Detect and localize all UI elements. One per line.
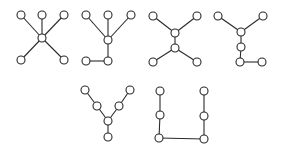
graph-diagram xyxy=(0,0,281,157)
node xyxy=(236,58,244,66)
node xyxy=(200,135,208,143)
node xyxy=(156,111,164,119)
node xyxy=(115,102,123,110)
node xyxy=(60,11,68,19)
node xyxy=(200,87,208,95)
graph-spider-with-bent-leg xyxy=(82,11,135,65)
graph-y-shape xyxy=(81,86,134,141)
node xyxy=(149,12,157,20)
node xyxy=(258,58,266,66)
node xyxy=(104,133,112,141)
node xyxy=(126,86,134,94)
node xyxy=(171,29,179,37)
node xyxy=(38,11,46,19)
graph-fork-with-tail xyxy=(214,12,267,66)
node xyxy=(60,56,68,64)
node xyxy=(200,112,208,120)
edge xyxy=(159,138,204,139)
edge xyxy=(42,38,64,60)
edge xyxy=(21,15,42,38)
edge xyxy=(108,15,131,40)
node xyxy=(104,117,112,125)
edge xyxy=(21,38,42,60)
node xyxy=(104,11,112,19)
node xyxy=(193,58,201,66)
diagram-canvas xyxy=(0,0,281,157)
node xyxy=(149,58,157,66)
node xyxy=(93,102,101,110)
node xyxy=(171,44,179,52)
node xyxy=(82,57,90,65)
graph-u-path xyxy=(155,87,208,143)
node xyxy=(17,56,25,64)
node xyxy=(156,87,164,95)
node xyxy=(82,11,90,19)
node xyxy=(259,12,267,20)
node xyxy=(193,12,201,20)
graph-star-k1-5 xyxy=(17,11,68,64)
node xyxy=(237,43,245,51)
edge xyxy=(86,15,108,40)
node xyxy=(81,86,89,94)
node xyxy=(237,28,245,36)
edge xyxy=(42,15,64,38)
node xyxy=(104,57,112,65)
node xyxy=(127,11,135,19)
node xyxy=(38,34,46,42)
node xyxy=(214,12,222,20)
node xyxy=(104,36,112,44)
node xyxy=(17,11,25,19)
node xyxy=(155,134,163,142)
graph-double-star-h xyxy=(149,12,201,66)
